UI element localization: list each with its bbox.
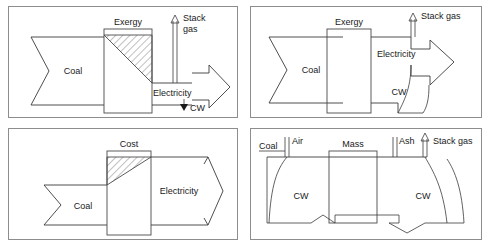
stack-gas-shaft bbox=[411, 19, 415, 37]
bottom-rail-to-cw bbox=[371, 103, 398, 113]
stack-gas-arrowhead-icon bbox=[409, 13, 417, 21]
label-coal: Coal bbox=[64, 66, 83, 76]
label-stack-gas: Stack gas bbox=[433, 136, 473, 146]
cw-curve-outer bbox=[423, 85, 429, 113]
electricity-block-arrow-icon bbox=[411, 37, 454, 85]
panel-exergy-plain: Exergy Coal Stack gas Electricity CW bbox=[250, 6, 482, 118]
panel-cost-canvas: Cost Coal Electricity bbox=[9, 129, 237, 239]
right-curve-inner bbox=[425, 157, 447, 223]
label-coal: Coal bbox=[302, 65, 321, 75]
left-cw-band bbox=[267, 215, 335, 223]
label-electricity: Electricity bbox=[160, 186, 199, 196]
electricity-arrow-barb-top bbox=[204, 157, 208, 164]
label-ash: Ash bbox=[399, 136, 415, 146]
stack-gas-arrowhead-icon bbox=[421, 133, 429, 141]
label-mass: Mass bbox=[342, 139, 364, 149]
label-gas: gas bbox=[183, 24, 198, 34]
air-line bbox=[285, 137, 289, 157]
right-curve-outer bbox=[447, 159, 464, 223]
label-electricity: Electricity bbox=[153, 88, 192, 98]
label-exergy: Exergy bbox=[114, 17, 143, 27]
stack-gas-arrowhead-icon bbox=[171, 15, 179, 23]
left-cw-band-upper bbox=[335, 215, 377, 223]
stack-gas-shaft bbox=[423, 139, 427, 157]
panel-mass-canvas: Coal Air Mass Ash Stack gas CW CW bbox=[251, 129, 481, 239]
panel-cost: Cost Coal Electricity bbox=[8, 128, 238, 240]
label-electricity: Electricity bbox=[377, 49, 416, 59]
label-coal: Coal bbox=[259, 141, 278, 151]
ash-line bbox=[393, 137, 397, 157]
right-cw-arrow-icon bbox=[389, 223, 447, 233]
electricity-arrow-barb-bottom bbox=[204, 218, 208, 225]
label-stack: Stack bbox=[183, 13, 206, 23]
label-cost: Cost bbox=[120, 139, 139, 149]
exergy-box bbox=[327, 29, 371, 113]
cw-arrowhead-icon bbox=[180, 104, 188, 111]
panel-exergy-destruction: Exergy Coal Stack gas Electricity CW bbox=[8, 6, 238, 118]
electricity-block-arrow-icon bbox=[192, 65, 230, 108]
panel-exergy-destruction-canvas: Exergy Coal Stack gas Electricity CW bbox=[9, 7, 237, 117]
label-cw: CW bbox=[392, 87, 407, 97]
mass-box bbox=[329, 151, 377, 223]
panel-mass: Coal Air Mass Ash Stack gas CW CW bbox=[250, 128, 482, 240]
label-stack-gas: Stack gas bbox=[421, 11, 461, 21]
exergy-destruction-hatch bbox=[104, 35, 152, 83]
stack-gas-shaft bbox=[173, 21, 177, 83]
right-cw-band-upper bbox=[377, 215, 399, 223]
label-air: Air bbox=[292, 136, 303, 146]
label-coal: Coal bbox=[74, 201, 93, 211]
label-cw: CW bbox=[190, 103, 205, 113]
figure-root: Exergy Coal Stack gas Electricity CW bbox=[0, 0, 490, 248]
electricity-chevron-arrow-icon bbox=[208, 157, 223, 225]
cost-hatch bbox=[107, 157, 151, 185]
label-cw-left: CW bbox=[294, 191, 309, 201]
panel-exergy-plain-canvas: Exergy Coal Stack gas Electricity CW bbox=[251, 7, 481, 117]
left-curve-inner bbox=[269, 157, 287, 223]
label-cw-right: CW bbox=[416, 191, 431, 201]
label-exergy: Exergy bbox=[335, 17, 364, 27]
